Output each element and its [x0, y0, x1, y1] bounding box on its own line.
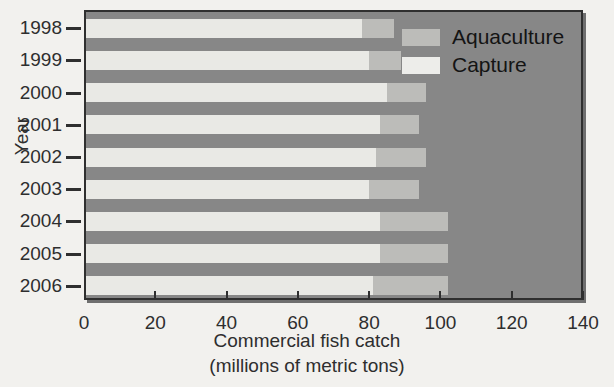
legend-item-capture: Capture	[402, 52, 564, 78]
x-tick-mark-140	[582, 291, 584, 300]
y-tick-label-2006: 2006	[0, 275, 62, 297]
y-tick-label-2001: 2001	[0, 114, 62, 136]
y-axis-tick-labels: 199819992000200120022003200420052006	[0, 0, 84, 310]
bar-row	[84, 83, 426, 102]
legend-item-aquaculture: Aquaculture	[402, 24, 564, 50]
y-tick-label-2000: 2000	[0, 82, 62, 104]
y-tick-mark-1998	[66, 27, 81, 30]
y-tick-mark-2000	[66, 92, 81, 95]
bar-row	[84, 148, 426, 167]
bar-segment-aquaculture	[369, 180, 419, 199]
bar-segment-capture	[84, 180, 369, 199]
bar-segment-capture	[84, 19, 362, 38]
bar-segment-aquaculture	[387, 83, 426, 102]
bar-segment-capture	[84, 212, 380, 231]
bar-segment-capture	[84, 276, 373, 295]
bar-row	[84, 212, 448, 231]
y-tick-label-1998: 1998	[0, 17, 62, 39]
y-tick-label-2005: 2005	[0, 243, 62, 265]
y-tick-mark-2004	[66, 220, 81, 223]
y-tick-label-1999: 1999	[0, 49, 62, 71]
x-tick-mark-40	[226, 291, 228, 300]
bar-row	[84, 51, 401, 70]
bar-row	[84, 276, 448, 295]
y-tick-mark-2003	[66, 188, 81, 191]
bar-segment-aquaculture	[376, 148, 426, 167]
bar-segment-aquaculture	[369, 51, 401, 70]
x-axis-title-line2: (millions of metric tons)	[0, 355, 614, 377]
x-tick-mark-60	[297, 291, 299, 300]
plot-area: Aquaculture Capture	[84, 10, 583, 300]
bar-row	[84, 115, 419, 134]
bar-segment-aquaculture	[380, 244, 448, 263]
bar-row	[84, 19, 394, 38]
legend-label-capture: Capture	[452, 53, 527, 77]
bar-segment-aquaculture	[362, 19, 394, 38]
x-tick-mark-20	[154, 291, 156, 300]
y-tick-mark-1999	[66, 59, 81, 62]
y-tick-label-2003: 2003	[0, 178, 62, 200]
bar-segment-aquaculture	[373, 276, 448, 295]
legend-swatch-capture	[402, 57, 440, 74]
legend-swatch-aquaculture	[402, 29, 440, 46]
bar-row	[84, 244, 448, 263]
bar-segment-capture	[84, 244, 380, 263]
x-tick-mark-120	[511, 291, 513, 300]
bar-segment-capture	[84, 115, 380, 134]
bar-segment-capture	[84, 83, 387, 102]
x-axis: 020406080100120140	[84, 300, 583, 330]
y-tick-label-2002: 2002	[0, 146, 62, 168]
bar-segment-aquaculture	[380, 115, 419, 134]
x-axis-title-line1: Commercial fish catch	[0, 330, 614, 352]
bar-segment-capture	[84, 51, 369, 70]
bar-segment-capture	[84, 148, 376, 167]
bar-segment-aquaculture	[380, 212, 448, 231]
x-tick-mark-80	[368, 291, 370, 300]
legend-label-aquaculture: Aquaculture	[452, 25, 564, 49]
y-tick-mark-2006	[66, 285, 81, 288]
y-tick-mark-2005	[66, 253, 81, 256]
x-tick-mark-100	[439, 291, 441, 300]
chart-canvas: Year 19981999200020012002200320042005200…	[0, 0, 614, 387]
bar-row	[84, 180, 419, 199]
y-tick-mark-2002	[66, 156, 81, 159]
y-tick-label-2004: 2004	[0, 210, 62, 232]
chart-legend: Aquaculture Capture	[402, 24, 564, 80]
y-tick-mark-2001	[66, 124, 81, 127]
